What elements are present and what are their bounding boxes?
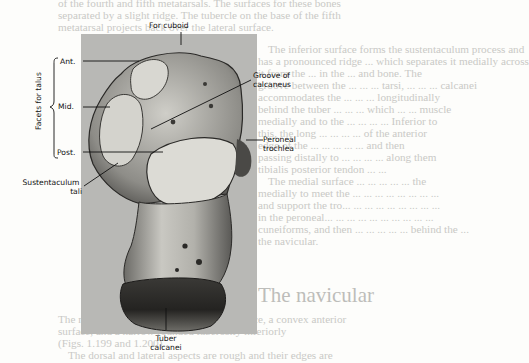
label-facets-for-talus: Facets for talus [34, 72, 43, 130]
label-peroneal-trochlea: Peroneal trochlea [263, 135, 296, 153]
label-middle-facet: Mid. [58, 102, 74, 111]
label-groove-line1: Groove of [253, 71, 291, 80]
label-groove-line2: calcaneus [253, 80, 291, 89]
label-tuber-line1: Tuber [140, 334, 192, 343]
label-tuber-line2: calcanei [140, 343, 192, 352]
label-peroneal-line2: trochlea [263, 144, 296, 153]
label-sustentaculum-tali: Sustentaculum tali [20, 178, 82, 196]
label-for-cuboid: For cuboid [149, 21, 189, 30]
label-tuber-calcanei: Tuber calcanei [140, 334, 192, 352]
label-posterior-facet: Post. [57, 148, 75, 157]
label-sustentaculum-line1: Sustentaculum [20, 178, 82, 187]
label-sustentaculum-line2: tali [20, 187, 82, 196]
label-anterior-facet: Ant. [60, 57, 75, 66]
label-peroneal-line1: Peroneal [263, 135, 296, 144]
label-groove-of-calcaneus: Groove of calcaneus [253, 71, 291, 89]
